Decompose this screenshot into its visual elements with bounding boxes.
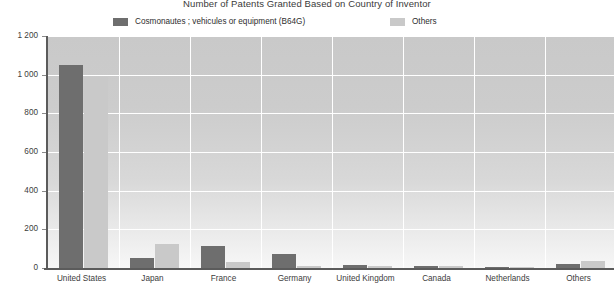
x-axis-baseline <box>44 268 614 270</box>
gridline-horizontal <box>48 75 614 76</box>
gridline-horizontal <box>48 229 614 230</box>
x-tick-label: Netherlands <box>485 274 529 284</box>
gridline-vertical <box>332 36 333 268</box>
gridline-horizontal <box>48 191 614 192</box>
x-tick-label: Others <box>566 274 591 284</box>
plot-wrapper: 02004006008001 0001 200 <box>0 36 614 270</box>
gridline-horizontal <box>48 36 614 37</box>
y-axis: 02004006008001 0001 200 <box>0 36 46 268</box>
x-tick-label: Japan <box>141 274 163 284</box>
gridline-vertical <box>545 36 546 268</box>
gridline-vertical <box>261 36 262 268</box>
x-tick-label: United States <box>57 274 106 284</box>
chart-legend: Cosmonautes ; vehicules or equipment (B6… <box>0 15 614 29</box>
gridline-horizontal <box>48 113 614 114</box>
y-tick-label: 1 000 <box>18 71 39 79</box>
legend-item-series-1[interactable]: Cosmonautes ; vehicules or equipment (B6… <box>113 15 305 29</box>
gridline-vertical <box>474 36 475 268</box>
gridline-horizontal <box>48 152 614 153</box>
x-axis: United StatesJapanFranceGermanyUnited Ki… <box>46 272 614 291</box>
bar <box>84 77 108 268</box>
gridline-vertical <box>119 36 120 268</box>
y-tick-label: 600 <box>24 148 38 156</box>
x-tick-label: Germany <box>278 274 312 284</box>
x-tick-label: Canada <box>422 274 451 284</box>
bar <box>59 65 83 268</box>
bar <box>130 258 154 268</box>
bar <box>201 246 225 268</box>
chart-title: Number of Patents Granted Based on Count… <box>0 0 614 10</box>
y-tick-label: 400 <box>24 187 38 195</box>
gridline-vertical <box>403 36 404 268</box>
bar <box>272 254 296 268</box>
legend-swatch-series-2 <box>390 18 405 26</box>
x-tick-label: France <box>211 274 236 284</box>
bar <box>155 244 179 268</box>
chart-root: Number of Patents Granted Based on Count… <box>0 0 614 291</box>
plot-area <box>46 36 614 268</box>
y-tick-label: 0 <box>33 264 38 272</box>
y-tick-label: 200 <box>24 225 38 233</box>
x-tick-label: United Kingdom <box>336 274 394 284</box>
legend-label-series-1: Cosmonautes ; vehicules or equipment (B6… <box>135 17 305 27</box>
bar <box>581 261 605 268</box>
plot-inner <box>48 36 614 268</box>
y-tick-label: 800 <box>24 109 38 117</box>
legend-label-series-2: Others <box>412 17 437 27</box>
gridline-vertical <box>190 36 191 268</box>
legend-item-series-2[interactable]: Others <box>390 15 437 29</box>
y-tick-label: 1 200 <box>18 32 39 40</box>
legend-swatch-series-1 <box>113 18 128 26</box>
